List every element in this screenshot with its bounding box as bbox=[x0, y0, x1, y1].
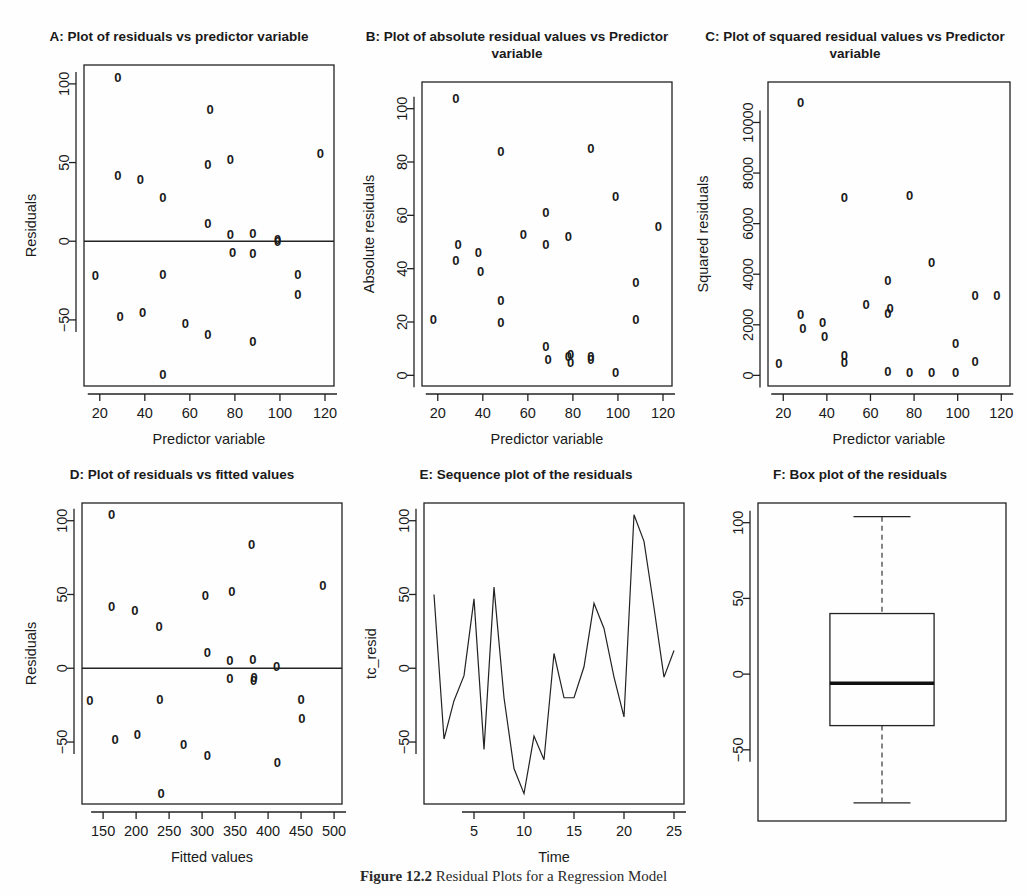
y-tick-label: 10000 bbox=[740, 102, 756, 142]
data-point: 0 bbox=[452, 91, 459, 106]
y-axis-label: Squared residuals bbox=[695, 176, 711, 293]
data-point: 0 bbox=[180, 737, 187, 752]
data-point: 0 bbox=[567, 347, 574, 362]
data-point: 0 bbox=[131, 603, 138, 618]
data-point: 0 bbox=[928, 255, 935, 270]
panel-f-plot: −50050100 bbox=[700, 491, 1020, 851]
y-axis-label: Residuals bbox=[23, 622, 39, 686]
data-point: 0 bbox=[952, 336, 959, 351]
x-axis-label: Fitted values bbox=[171, 849, 253, 865]
data-point: 0 bbox=[226, 671, 233, 686]
data-point: 0 bbox=[632, 275, 639, 290]
x-tick-label: 40 bbox=[475, 405, 491, 421]
x-tick-label: 500 bbox=[322, 823, 346, 839]
data-points: 00000000000000000000000000 bbox=[430, 91, 662, 381]
plot-frame bbox=[768, 82, 1010, 386]
x-tick-label: 15 bbox=[566, 823, 582, 839]
data-point: 0 bbox=[294, 267, 301, 282]
x-tick-label: 60 bbox=[520, 405, 536, 421]
data-point: 0 bbox=[204, 216, 211, 231]
data-point: 0 bbox=[92, 268, 99, 283]
y-tick-label: 0 bbox=[54, 664, 70, 672]
y-tick-label: 0 bbox=[730, 670, 746, 678]
data-point: 0 bbox=[612, 189, 619, 204]
y-tick-label: 100 bbox=[394, 97, 410, 121]
data-point: 0 bbox=[204, 327, 211, 342]
data-point: 0 bbox=[454, 237, 461, 252]
data-point: 0 bbox=[497, 315, 504, 330]
panel-d: D: Plot of residuals vs fitted values 15… bbox=[14, 466, 350, 866]
data-point: 0 bbox=[297, 692, 304, 707]
data-point: 0 bbox=[612, 365, 619, 380]
data-point: 0 bbox=[971, 288, 978, 303]
panel-e: E: Sequence plot of the residuals 510152… bbox=[358, 466, 694, 866]
y-tick-label: 20 bbox=[394, 314, 410, 330]
y-tick-label: 50 bbox=[54, 586, 70, 602]
panel-e-plot: 510152025−50050100Timetc_resid bbox=[358, 491, 694, 866]
data-point: 0 bbox=[587, 352, 594, 367]
x-tick-label: 250 bbox=[157, 823, 181, 839]
data-point: 0 bbox=[452, 253, 459, 268]
data-points: 0000000000000000000000000 bbox=[86, 507, 326, 801]
data-point: 0 bbox=[108, 599, 115, 614]
x-axis-label: Predictor variable bbox=[491, 431, 604, 447]
panel-c-title: C: Plot of squared residual values vs Pr… bbox=[690, 28, 1020, 62]
x-tick-label: 40 bbox=[819, 405, 835, 421]
x-tick-label: 80 bbox=[227, 405, 243, 421]
y-tick-label: 80 bbox=[394, 154, 410, 170]
data-point: 0 bbox=[227, 152, 234, 167]
data-point: 0 bbox=[249, 226, 256, 241]
data-point: 0 bbox=[520, 227, 527, 242]
plot-frame bbox=[82, 503, 342, 804]
y-tick-label: 50 bbox=[56, 154, 72, 170]
data-point: 0 bbox=[497, 293, 504, 308]
x-axis-label: Predictor variable bbox=[153, 431, 266, 447]
data-point: 0 bbox=[114, 168, 121, 183]
data-point: 0 bbox=[430, 312, 437, 327]
panel-a-title: A: Plot of residuals vs predictor variab… bbox=[14, 28, 344, 45]
y-tick-label: 8000 bbox=[740, 157, 756, 189]
data-point: 0 bbox=[249, 246, 256, 261]
x-tick-label: 120 bbox=[651, 405, 675, 421]
x-tick-label: 5 bbox=[470, 823, 478, 839]
y-axis-label: Absolute residuals bbox=[361, 175, 377, 294]
panel-f-title: F: Box plot of the residuals bbox=[700, 466, 1020, 483]
y-tick-label: 6000 bbox=[740, 207, 756, 239]
data-point: 0 bbox=[797, 307, 804, 322]
y-tick-label: 100 bbox=[730, 511, 746, 535]
x-tick-label: 10 bbox=[516, 823, 532, 839]
data-point: 0 bbox=[497, 144, 504, 159]
x-tick-label: 450 bbox=[289, 823, 313, 839]
x-axis-label: Predictor variable bbox=[833, 431, 946, 447]
data-points: 0000000000000000000000000 bbox=[92, 70, 324, 382]
panel-c: C: Plot of squared residual values vs Pr… bbox=[690, 28, 1020, 448]
x-tick-label: 40 bbox=[137, 405, 153, 421]
data-point: 0 bbox=[86, 693, 93, 708]
data-point: 0 bbox=[884, 273, 891, 288]
y-tick-label: 100 bbox=[396, 509, 412, 533]
y-axis-label: Residuals bbox=[23, 194, 39, 258]
x-tick-label: 100 bbox=[606, 405, 630, 421]
y-axis-label: tc_resid bbox=[363, 628, 379, 679]
data-point: 0 bbox=[159, 367, 166, 382]
data-point: 0 bbox=[542, 237, 549, 252]
data-point: 0 bbox=[655, 219, 662, 234]
y-tick-label: 100 bbox=[56, 72, 72, 96]
data-point: 0 bbox=[159, 267, 166, 282]
y-tick-label: 0 bbox=[394, 371, 410, 379]
data-point: 0 bbox=[632, 312, 639, 327]
x-tick-label: 350 bbox=[223, 823, 247, 839]
data-point: 0 bbox=[971, 354, 978, 369]
data-point: 0 bbox=[797, 95, 804, 110]
panel-d-title: D: Plot of residuals vs fitted values bbox=[14, 466, 350, 483]
residual-sequence-line bbox=[434, 515, 674, 794]
data-point: 0 bbox=[229, 245, 236, 260]
data-point: 0 bbox=[587, 141, 594, 156]
y-tick-label: 4000 bbox=[740, 258, 756, 290]
data-point: 0 bbox=[202, 588, 209, 603]
y-tick-label: −50 bbox=[730, 738, 746, 763]
data-point: 0 bbox=[799, 321, 806, 336]
data-points: 00000000000000000000000 bbox=[775, 95, 1000, 381]
data-point: 0 bbox=[249, 334, 256, 349]
data-point: 0 bbox=[274, 234, 281, 249]
